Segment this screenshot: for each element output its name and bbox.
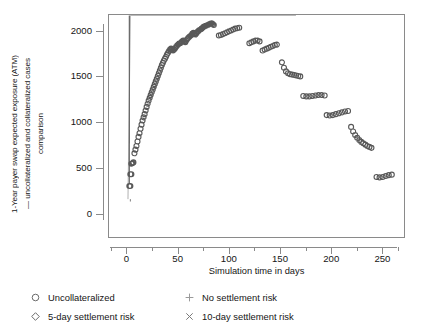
plus-marker-icon (184, 292, 195, 303)
legend-label: Uncollateralized (48, 292, 115, 303)
legend-label: No settlement risk (202, 292, 277, 303)
y-axis-line (103, 24, 104, 220)
x-minor-tick (254, 247, 255, 251)
x-minor-tick (357, 247, 358, 251)
y-tick (96, 31, 103, 32)
x-minor-tick (398, 247, 399, 251)
legend-label: 10-day settlement risk (202, 311, 294, 322)
y-tick-label: 500 (48, 162, 92, 173)
y-tick (96, 168, 103, 169)
data-layer (109, 15, 404, 237)
legend-label: 5-day settlement risk (48, 311, 135, 322)
x-tick-label: 150 (260, 253, 300, 264)
x-axis-title: Simulation time in days (108, 266, 405, 276)
x-minor-tick (152, 247, 153, 251)
y-axis-title: 1-Year payer swap expected exposure (ATM… (0, 0, 46, 268)
x-tick-label: 250 (362, 253, 402, 264)
legend-item-no-settlement-risk[interactable]: No settlement risk (184, 292, 277, 303)
y-tick-label: 2000 (48, 25, 92, 36)
legend-item-10-day-settlement-risk[interactable]: 10-day settlement risk (184, 311, 294, 322)
y-tick (96, 76, 103, 77)
chart-legend: Uncollateralized No settlement risk 5-da… (14, 292, 414, 332)
diamond-marker-icon (30, 311, 41, 322)
x-tick-label: 100 (209, 253, 249, 264)
y-tick (96, 122, 103, 123)
x-tick-label: 50 (158, 253, 198, 264)
x-tick-label: 0 (106, 253, 146, 264)
x-tick-label: 200 (311, 253, 351, 264)
y-tick (96, 214, 103, 215)
x-minor-tick (203, 247, 204, 251)
x-marker-icon (184, 311, 195, 322)
legend-item-5-day-settlement-risk[interactable]: 5-day settlement risk (30, 311, 135, 322)
circle-marker-icon (30, 292, 41, 303)
y-tick-label: 0 (48, 208, 92, 219)
y-tick-label: 1000 (48, 116, 92, 127)
series-uncollateralized (127, 21, 394, 189)
legend-item-uncollateralized[interactable]: Uncollateralized (30, 292, 115, 303)
y-tick-label: 1500 (48, 70, 92, 81)
plot-area (108, 14, 405, 238)
x-minor-tick (306, 247, 307, 251)
y-axis-title-line-3: comparison (32, 0, 50, 268)
chart-figure: 1-Year payer swap expected exposure (ATM… (0, 0, 422, 334)
series-10-day-settlement-risk (128, 15, 296, 199)
x-minor-tick (111, 247, 112, 251)
